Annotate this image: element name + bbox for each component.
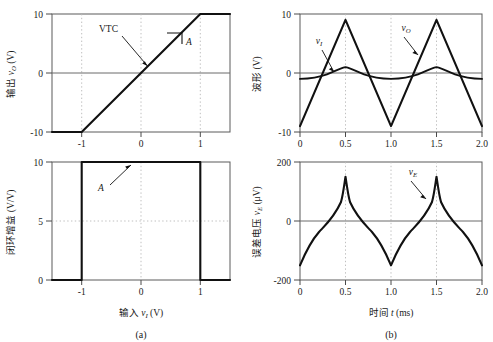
svg-text:误差电压 vE (μV): 误差电压 vE (μV) bbox=[251, 186, 263, 257]
gain-xlabel: 输入 vI (V) bbox=[119, 307, 163, 319]
err-ytick-neg200: -200 bbox=[274, 276, 292, 286]
vtc-ytick-neg10: -10 bbox=[30, 128, 43, 138]
wave-ylabel: 波形 (V) bbox=[251, 56, 263, 92]
gain-gridlines bbox=[52, 162, 230, 280]
svg-text:波形 (V): 波形 (V) bbox=[251, 56, 263, 92]
gain-ytick-10: 10 bbox=[34, 158, 44, 168]
wave-ylabel-unit: (V) bbox=[252, 56, 263, 69]
gain-y-ticks bbox=[46, 162, 52, 280]
vtc-xtick-0: 0 bbox=[139, 139, 144, 149]
gain-xtick-0: 0 bbox=[139, 287, 144, 297]
vtc-x-ticks bbox=[82, 132, 201, 137]
vtc-ylabel-unit: (V) bbox=[6, 50, 17, 63]
gain-ytick-5: 5 bbox=[38, 217, 43, 227]
err-xlabel-cn: 时间 bbox=[369, 307, 389, 318]
vtc-xtick-1: 1 bbox=[198, 139, 203, 149]
wave-xtick-10: 1.0 bbox=[385, 139, 397, 149]
err-xtick-15: 1.5 bbox=[431, 287, 443, 297]
vtc-annotation-label: VTC bbox=[99, 24, 118, 34]
vtc-slope-label: A bbox=[185, 37, 192, 47]
vtc-ytick-0: 0 bbox=[38, 69, 43, 79]
wave-ytick-10: 10 bbox=[282, 10, 292, 20]
vtc-ylabel-cn: 输出 bbox=[5, 78, 16, 98]
wave-ytick-0: 0 bbox=[286, 69, 291, 79]
gain-xtick-1: 1 bbox=[198, 287, 203, 297]
svg-text:输出 vO (V): 输出 vO (V) bbox=[5, 50, 17, 97]
gain-xtick-neg1: -1 bbox=[78, 287, 86, 297]
err-y-ticks bbox=[294, 162, 300, 280]
svg-text:闭环增益 (V/V): 闭环增益 (V/V) bbox=[5, 189, 17, 254]
gain-annotation-label: A bbox=[97, 183, 104, 193]
err-x-ticks bbox=[300, 280, 482, 285]
err-ylabel-cn: 误差电压 bbox=[251, 218, 262, 258]
err-label-ve: vE bbox=[409, 167, 418, 178]
gain-ytick-0: 0 bbox=[38, 276, 43, 286]
gain-ylabel-unit: (V/V) bbox=[6, 189, 17, 212]
wave-xtick-05: 0.5 bbox=[340, 139, 352, 149]
wave-leader-arrow-vo bbox=[412, 51, 418, 55]
wave-label-vi: vI bbox=[316, 36, 323, 47]
wave-xtick-15: 1.5 bbox=[431, 139, 443, 149]
wave-ylabel-cn: 波形 bbox=[251, 72, 262, 92]
gain-ylabel: 闭环增益 (V/V) bbox=[5, 189, 17, 254]
gain-x-ticks bbox=[82, 280, 201, 285]
err-ytick-0: 0 bbox=[286, 217, 291, 227]
vtc-leader-line bbox=[122, 36, 148, 66]
panel-closed-loop-gain: 闭环增益 (V/V) 10 5 0 bbox=[0, 150, 246, 342]
err-ytick-200: 200 bbox=[277, 158, 292, 168]
err-xtick-10: 1.0 bbox=[385, 287, 397, 297]
panel-waveforms: 波形 (V) 10 0 -10 bbox=[246, 0, 493, 150]
wave-ytick-neg10: -10 bbox=[278, 128, 291, 138]
wave-xtick-20: 2.0 bbox=[476, 139, 488, 149]
gain-xlabel-cn: 输入 bbox=[119, 307, 139, 318]
err-ylabel-unit: (μV) bbox=[252, 186, 263, 204]
vtc-y-ticks bbox=[46, 14, 52, 132]
gain-leader-arrow bbox=[125, 165, 131, 169]
err-xlabel: 时间 t (ms) bbox=[369, 307, 414, 319]
wave-y-ticks bbox=[294, 14, 300, 132]
vtc-ytick-10: 10 bbox=[34, 10, 44, 20]
err-ylabel: 误差电压 vE (μV) bbox=[251, 186, 263, 257]
figure-root: 输出 vO (V) 10 0 -10 bbox=[0, 0, 493, 342]
panel-vtc: 输出 vO (V) 10 0 -10 bbox=[0, 0, 246, 150]
wave-label-vo: vO bbox=[401, 23, 410, 34]
wave-x-ticks bbox=[300, 132, 482, 137]
err-xtick-20: 2.0 bbox=[476, 287, 488, 297]
vtc-ylabel: 输出 vO (V) bbox=[5, 50, 17, 97]
vtc-leader-arrow bbox=[142, 61, 147, 66]
wave-xtick-0: 0 bbox=[298, 139, 303, 149]
panel-error-voltage: 误差电压 vE (μV) 200 0 -200 bbox=[246, 150, 493, 342]
vtc-xtick-neg1: -1 bbox=[78, 139, 86, 149]
gain-ylabel-cn: 闭环增益 bbox=[5, 215, 16, 255]
caption-b: (b) bbox=[385, 329, 397, 341]
err-xtick-05: 0.5 bbox=[340, 287, 352, 297]
err-xtick-0: 0 bbox=[298, 287, 303, 297]
caption-a: (a) bbox=[135, 329, 146, 341]
err-leader-arrow-ve bbox=[420, 195, 426, 199]
